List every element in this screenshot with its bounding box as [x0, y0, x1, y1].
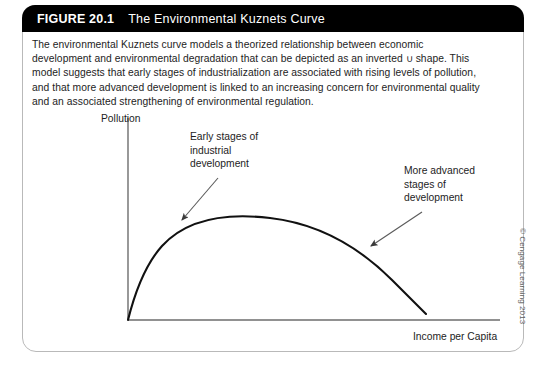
x-axis-label: Income per Capita: [413, 331, 497, 342]
annotation-early-stages: Early stages of industrial development: [190, 130, 258, 171]
figure-header-bar: FIGURE 20.1 The Environmental Kuznets Cu…: [22, 5, 524, 32]
chart-area: Pollution Income per Capita Early stages…: [22, 100, 524, 352]
figure-number: FIGURE 20.1: [37, 12, 114, 26]
y-axis-label: Pollution: [101, 113, 141, 124]
annotation-advanced-stages: More advanced stages of development: [404, 164, 475, 205]
kuznets-curve-plot: [22, 100, 524, 352]
figure-container: FIGURE 20.1 The Environmental Kuznets Cu…: [0, 0, 559, 367]
figure-description: The environmental Kuznets curve models a…: [32, 38, 480, 109]
early-stages-leader-line: [182, 178, 218, 220]
figure-title: The Environmental Kuznets Curve: [128, 12, 325, 26]
kuznets-curve-path: [128, 216, 426, 320]
copyright-credit: © Cengage Learning 2013: [518, 228, 527, 324]
advanced-stages-leader-line: [371, 212, 422, 246]
